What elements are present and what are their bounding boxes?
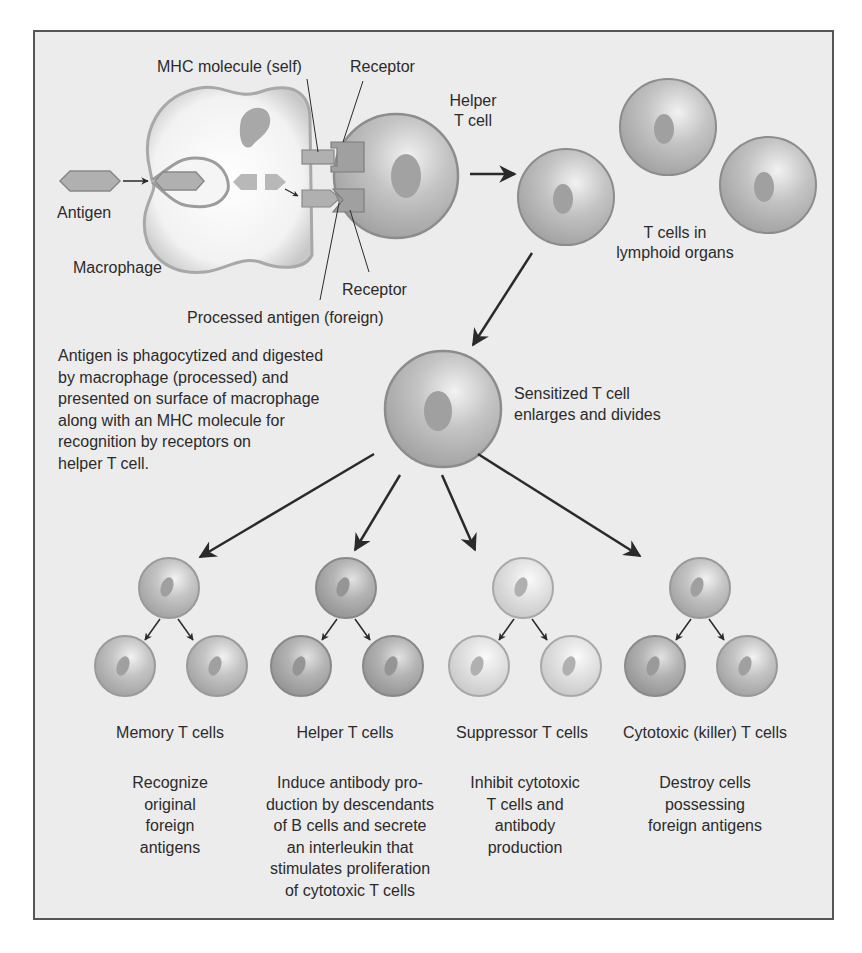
- outcome-desc-helper: Induce antibody pro- duction by descenda…: [250, 772, 450, 901]
- diagram-stage: MHC molecule (self) Receptor Helper T ce…: [0, 0, 862, 953]
- antigen-shape: [60, 171, 148, 191]
- label-mhc-molecule: MHC molecule (self): [157, 56, 302, 77]
- arrow-to-sensitized: [473, 253, 532, 345]
- label-receptor-bottom: Receptor: [342, 279, 407, 300]
- outcome-name-suppressor: Suppressor T cells: [442, 722, 602, 743]
- label-helper-t-cell-line2: T cell: [443, 110, 503, 131]
- lymphoid-t-cells: [518, 79, 816, 245]
- outcome-desc-cytotoxic: Destroy cells possessing foreign antigen…: [630, 772, 780, 837]
- processed-antigen-shape: [302, 190, 340, 207]
- label-t-cells-lymphoid-line1: T cells in: [600, 222, 750, 243]
- helper-t-cell: [331, 114, 458, 238]
- cytotoxic-t-cells-group: [625, 558, 777, 696]
- outcome-desc-suppressor: Inhibit cytotoxic T cells and antibody p…: [455, 772, 595, 858]
- macrophage-cell: [144, 87, 312, 272]
- outcome-name-helper: Helper T cells: [270, 722, 420, 743]
- memory-t-cells-group: [95, 558, 247, 696]
- explanation-text: Antigen is phagocytized and digested by …: [58, 345, 323, 474]
- label-helper-t-cell-line1: Helper: [443, 90, 503, 111]
- outcome-desc-memory: Recognize original foreign antigens: [110, 772, 230, 858]
- label-antigen: Antigen: [57, 202, 111, 223]
- label-processed-antigen: Processed antigen (foreign): [187, 307, 384, 328]
- helper-t-cells-group: [271, 558, 423, 696]
- label-macrophage: Macrophage: [73, 257, 162, 278]
- mhc-molecule: [302, 150, 334, 164]
- outcome-name-cytotoxic: Cytotoxic (killer) T cells: [610, 722, 800, 743]
- label-sensitized-line2: enlarges and divides: [514, 404, 661, 425]
- outcome-name-memory: Memory T cells: [95, 722, 245, 743]
- label-t-cells-lymphoid-line2: lymphoid organs: [600, 242, 750, 263]
- label-receptor-top: Receptor: [350, 56, 415, 77]
- sensitized-t-cell: [385, 351, 501, 467]
- label-sensitized-line1: Sensitized T cell: [514, 383, 630, 404]
- suppressor-t-cells-group: [449, 558, 601, 696]
